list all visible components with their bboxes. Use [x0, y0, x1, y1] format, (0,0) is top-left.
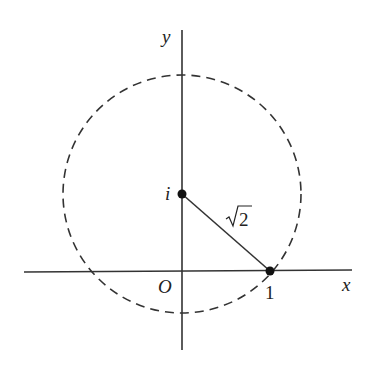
- x-axis-label: x: [341, 274, 351, 295]
- radicand: 2: [239, 209, 249, 230]
- x-axis: [24, 270, 352, 272]
- point-i: [178, 190, 187, 199]
- diagram-canvas: y x O i 1 2: [0, 0, 374, 372]
- sqrt2-label: 2: [226, 206, 252, 230]
- point-one: [266, 267, 275, 276]
- radius-segment: [182, 194, 270, 271]
- y-axis-label: y: [160, 26, 171, 47]
- complex-plane-diagram: y x O i 1 2: [0, 0, 374, 372]
- point-i-label: i: [165, 183, 170, 204]
- origin-label: O: [158, 276, 172, 297]
- point-one-label: 1: [265, 282, 275, 303]
